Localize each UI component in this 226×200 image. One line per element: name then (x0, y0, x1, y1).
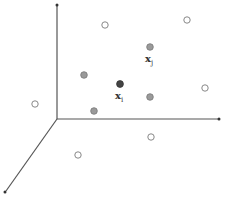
axes (6, 6, 218, 191)
label-xj: xj (145, 54, 153, 67)
open-point (184, 17, 190, 23)
open-point (202, 85, 208, 91)
open-point (32, 101, 38, 107)
axis-endpoints (4, 4, 221, 194)
gray-point-xj (147, 44, 154, 51)
label-xj-sub: j (151, 59, 153, 67)
dark-points (117, 81, 124, 88)
open-point (148, 134, 154, 140)
gray-point (81, 72, 88, 79)
horizontal-axis-end (218, 118, 221, 121)
vertical-axis-end (56, 4, 59, 7)
open-point (75, 152, 81, 158)
dark-point-xi (117, 81, 124, 88)
label-xi-sub: i (121, 96, 123, 104)
depth-axis-end (4, 191, 7, 194)
gray-point (91, 108, 98, 115)
scatter-diagram (0, 0, 226, 200)
depth-axis (6, 119, 57, 191)
open-point (102, 22, 108, 28)
label-xi: xi (115, 91, 123, 104)
gray-point (147, 94, 154, 101)
